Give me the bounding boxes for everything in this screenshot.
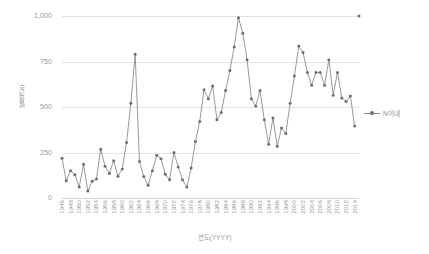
data-point — [99, 148, 102, 151]
data-point — [211, 85, 214, 88]
y-axis-tick: 750 — [40, 58, 52, 65]
x-axis-tick: 1966 — [145, 200, 151, 214]
data-point — [284, 132, 287, 135]
data-point — [319, 71, 322, 74]
x-axis-tick: 1964 — [136, 200, 142, 214]
data-point — [134, 53, 137, 56]
data-point — [61, 157, 64, 160]
data-point — [259, 89, 262, 92]
data-point — [181, 178, 184, 181]
x-axis-tick: 2000 — [291, 200, 297, 214]
x-axis-tick: 1956 — [102, 200, 108, 214]
data-point — [336, 71, 339, 74]
x-axis-tick: 2002 — [300, 200, 306, 214]
y-axis-tick: 250 — [40, 149, 52, 156]
data-point — [86, 190, 89, 193]
data-point — [241, 32, 244, 35]
x-axis-tick: 1972 — [171, 200, 177, 214]
data-point — [129, 102, 132, 105]
data-point — [310, 84, 313, 87]
x-axis-tick: 1976 — [188, 200, 194, 214]
x-axis-tick: 1954 — [93, 200, 99, 214]
data-point — [73, 173, 76, 176]
data-point — [280, 126, 283, 129]
x-axis-tick: 1978 — [197, 200, 203, 214]
x-axis-tick: 2006 — [317, 200, 323, 214]
x-axis-tick: 1970 — [162, 200, 168, 214]
data-point — [345, 100, 348, 103]
data-point — [289, 102, 292, 105]
data-point — [91, 180, 94, 183]
data-point — [155, 154, 158, 157]
data-point — [302, 51, 305, 54]
data-point — [297, 45, 300, 48]
data-point — [215, 118, 218, 121]
chart-legend: N이내 — [364, 108, 400, 118]
x-axis-tick: 1950 — [76, 200, 82, 214]
x-axis-tick: 1996 — [274, 200, 280, 214]
data-point — [323, 84, 326, 87]
data-point — [237, 16, 240, 19]
x-axis-tick: 1968 — [154, 200, 160, 214]
data-point — [203, 88, 206, 91]
data-point — [116, 175, 119, 178]
line-chart: 발생건수 02505007501,000 1946194819501952195… — [0, 0, 429, 254]
x-axis-tick: 2010 — [334, 200, 340, 214]
data-point — [233, 45, 236, 48]
x-axis-tick: 1986 — [231, 200, 237, 214]
x-axis-tick: 1998 — [283, 200, 289, 214]
data-point — [65, 179, 68, 182]
data-point — [228, 69, 231, 72]
data-point — [160, 157, 163, 160]
x-axis-tick: 1962 — [128, 200, 134, 214]
x-axis-tick: 2014 — [352, 200, 358, 214]
x-axis-tick: 1984 — [223, 200, 229, 214]
data-point — [267, 143, 270, 146]
x-axis-tick: 1948 — [68, 200, 74, 214]
data-point — [151, 169, 154, 172]
x-axis-tick: 2008 — [326, 200, 332, 214]
x-axis-tick-labels: 1946194819501952195419561958196019621964… — [62, 200, 359, 230]
data-point — [82, 163, 85, 166]
plot-area — [62, 16, 359, 198]
data-point — [172, 151, 175, 154]
x-axis-tick: 2012 — [343, 200, 349, 214]
data-point — [142, 175, 145, 178]
data-point — [112, 159, 115, 162]
data-point — [207, 97, 210, 100]
data-point — [95, 177, 98, 180]
x-axis-tick: 1988 — [240, 200, 246, 214]
data-point — [121, 167, 124, 170]
data-point — [358, 15, 361, 18]
data-point — [340, 96, 343, 99]
data-point — [108, 172, 111, 175]
data-point — [246, 58, 249, 61]
y-axis-tick: 1,000 — [34, 12, 52, 19]
data-point — [164, 173, 167, 176]
x-axis-tick: 1982 — [214, 200, 220, 214]
data-point — [177, 166, 180, 169]
y-axis-tick: 0 — [48, 194, 52, 201]
legend-marker-icon — [364, 110, 380, 117]
data-point — [78, 186, 81, 189]
data-point — [168, 178, 171, 181]
data-point — [250, 97, 253, 100]
data-point — [293, 75, 296, 78]
data-point — [147, 184, 150, 187]
data-point — [198, 120, 201, 123]
data-point — [327, 58, 330, 61]
data-point — [306, 71, 309, 74]
x-axis-tick: 1946 — [59, 200, 65, 214]
x-axis-tick: 1974 — [180, 200, 186, 214]
legend-item-label: N이내 — [383, 108, 400, 118]
data-point — [125, 141, 128, 144]
data-point — [314, 71, 317, 74]
x-axis-tick: 1994 — [266, 200, 272, 214]
data-point — [69, 169, 72, 172]
x-axis-tick: 1952 — [85, 200, 91, 214]
data-point — [220, 111, 223, 114]
data-point — [276, 145, 279, 148]
y-axis-tick: 500 — [40, 103, 52, 110]
series-line-n-inae — [62, 16, 359, 198]
data-point — [194, 140, 197, 143]
